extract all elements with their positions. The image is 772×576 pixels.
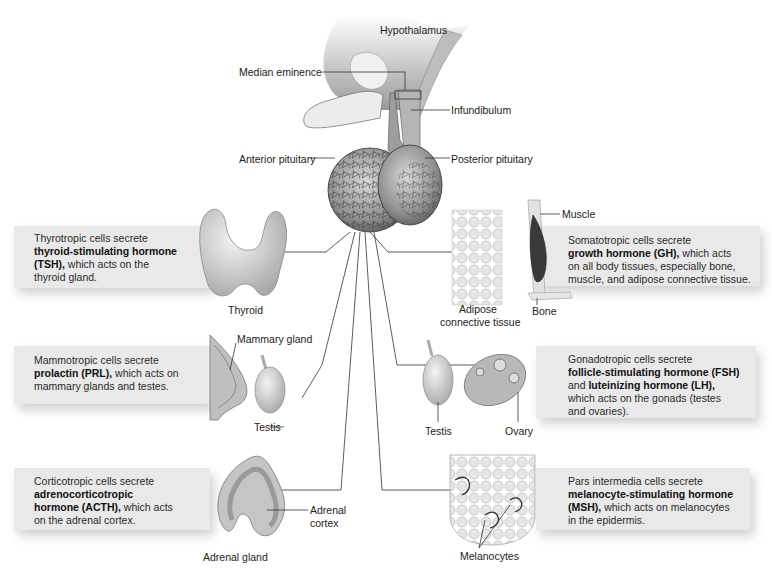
label-adipose: Adipose [440,303,516,316]
testis-illustration-prl [255,355,285,427]
adipose-tissue-illustration [452,210,502,305]
label-adipose-connective-tissue: Adipose connective tissue [440,303,516,329]
label-connective-tissue: connective tissue [440,316,516,329]
label-ovary: Ovary [505,425,533,437]
label-posterior-pituitary: Posterior pituitary [451,153,533,165]
label-anterior-pituitary: Anterior pituitary [239,153,315,165]
label-testis-fsh: Testis [425,425,452,437]
thyroid-illustration [200,209,287,296]
label-cortex: cortex [310,517,346,530]
posterior-pituitary-illustration [378,145,442,225]
label-testis-prl: Testis [254,421,281,433]
ovary-illustration [456,345,534,422]
diagram-artwork [0,0,772,576]
label-adrenal-cortex: Adrenal cortex [310,504,346,530]
adrenal-gland-illustration [218,456,308,536]
label-mammary-gland: Mammary gland [237,333,312,345]
label-adrenal-gland: Adrenal gland [203,551,268,563]
label-melanocytes: Melanocytes [460,550,519,562]
label-median-eminence: Median eminence [239,66,322,78]
label-bone: Bone [532,305,557,317]
label-muscle: Muscle [562,208,595,220]
melanocytes-illustration [450,455,535,548]
label-thyroid: Thyroid [228,304,263,316]
mammary-gland-illustration [210,335,247,420]
label-infundibulum: Infundibulum [451,104,511,116]
label-adrenal: Adrenal [310,504,346,517]
label-hypothalamus: Hypothalamus [380,24,447,36]
testis-illustration-fsh [423,340,453,422]
